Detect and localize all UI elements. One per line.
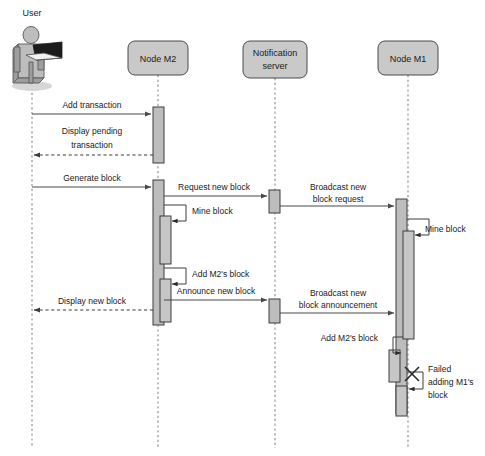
message-add-m2-block-on-m2[interactable]: Add M2's block <box>164 268 250 284</box>
message-add-m2-block-on-m1-label: Add M2's block <box>321 333 379 343</box>
actor-user-label: User <box>22 8 41 18</box>
message-add-transaction-label: Add transaction <box>62 100 121 110</box>
message-display-pending-transaction-line1: Display pending <box>62 126 123 136</box>
message-request-new-block[interactable]: Request new block <box>164 182 267 196</box>
activation-notif-request <box>269 190 280 213</box>
header-node-m1-label: Node M1 <box>390 54 427 64</box>
header-node-m2-label: Node M2 <box>140 54 177 64</box>
activation-m1-failed-block <box>396 386 407 416</box>
message-broadcast-new-block-announcement-line1: Broadcast new <box>310 288 367 298</box>
message-failed-adding-m1-block-line1: Failed <box>428 364 451 374</box>
message-failed-adding-m1-block-line2: adding M1's <box>428 377 474 387</box>
header-node-m1[interactable]: Node M1 <box>378 41 438 75</box>
message-request-new-block-label: Request new block <box>178 182 251 192</box>
message-display-pending-transaction[interactable]: Display pending transaction <box>34 126 153 155</box>
message-add-m2-block-on-m2-label: Add M2's block <box>192 269 250 279</box>
message-mine-block-m1[interactable]: Mine block <box>407 219 466 235</box>
message-failed-adding-m1-block[interactable]: Failed adding M1's block <box>405 364 474 400</box>
message-display-new-block-label: Display new block <box>58 296 127 306</box>
header-notification-server-line2: server <box>262 61 287 71</box>
message-broadcast-new-block-announcement-line2: block announcement <box>299 300 378 310</box>
message-failed-adding-m1-block-line3: block <box>428 390 449 400</box>
header-notification-server-line1: Notification <box>253 48 298 58</box>
header-node-m2[interactable]: Node M2 <box>128 41 188 75</box>
message-mine-block-m1-label: Mine block <box>425 224 466 234</box>
message-announce-new-block[interactable]: Announce new block <box>164 286 267 300</box>
activation-notif-announce <box>269 299 280 323</box>
message-broadcast-new-block-request-line2: block request <box>313 194 364 204</box>
activation-m1-mine-block <box>403 231 414 339</box>
sequence-diagram-svg: User <box>0 0 485 456</box>
participant-headers: Node M2 Notification server Node M1 <box>128 41 438 78</box>
message-broadcast-new-block-announcement[interactable]: Broadcast new block announcement <box>280 288 394 313</box>
actor-user: User <box>12 8 62 91</box>
message-broadcast-new-block-request[interactable]: Broadcast new block request <box>280 182 394 206</box>
message-broadcast-new-block-request-line1: Broadcast new <box>310 182 367 192</box>
message-mine-block-m2[interactable]: Mine block <box>164 205 233 221</box>
activation-m2-mine-block <box>160 216 171 264</box>
message-display-pending-transaction-line2: transaction <box>71 140 113 150</box>
message-display-new-block[interactable]: Display new block <box>34 296 153 310</box>
message-mine-block-m2-label: Mine block <box>192 206 233 216</box>
sequence-diagram-canvas: User <box>0 0 485 456</box>
activation-bars <box>153 107 414 416</box>
header-notification-server[interactable]: Notification server <box>243 41 307 78</box>
message-generate-block-label: Generate block <box>63 173 121 183</box>
user-figure-icon <box>12 27 62 92</box>
activation-m2-add-transaction <box>153 107 164 163</box>
message-announce-new-block-label: Announce new block <box>177 286 256 296</box>
activation-m1-add-m2-block <box>389 350 400 382</box>
message-generate-block[interactable]: Generate block <box>32 173 151 187</box>
message-add-transaction[interactable]: Add transaction <box>32 100 151 114</box>
